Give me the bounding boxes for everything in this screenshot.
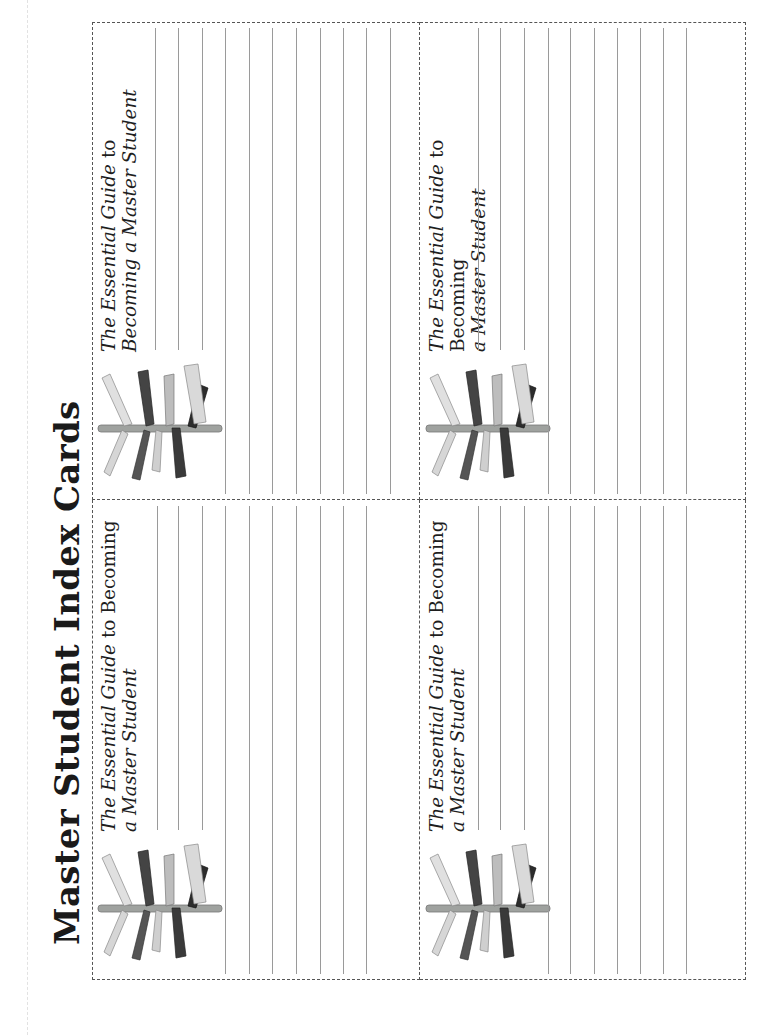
ruled-line — [390, 28, 391, 494]
ruled-line — [594, 28, 595, 494]
ruled-line — [640, 28, 641, 494]
ruled-line — [478, 28, 479, 350]
ruled-line — [178, 506, 179, 830]
ruled-line — [548, 28, 549, 494]
index-card-sheet: Master Student Index Cards — [0, 0, 762, 1035]
cut-line — [92, 22, 93, 500]
ruled-line — [296, 28, 297, 494]
ruled-line — [155, 28, 156, 350]
card-heading-line2: a Master Student — [447, 668, 468, 832]
ruled-line — [202, 506, 203, 830]
ruled-line — [617, 28, 618, 494]
card-heading-italic: The Essential Guide — [426, 644, 447, 832]
ruled-line — [272, 506, 273, 974]
cut-line — [420, 22, 746, 23]
ruled-line — [570, 506, 571, 974]
ruled-line — [178, 28, 179, 350]
ruled-line — [524, 506, 525, 830]
ruled-line — [249, 28, 250, 494]
cut-line — [745, 22, 746, 500]
index-card-bottom-right: The Essential Guide to Becoming a Master… — [420, 22, 746, 500]
ruled-line — [225, 28, 226, 494]
ruled-line — [663, 28, 664, 494]
card-heading-italic: The Essential Guide — [426, 164, 447, 352]
signpost-icon — [422, 360, 552, 490]
card-heading: The Essential Guide to Becoming a Master… — [426, 520, 468, 832]
page-title: Master Student Index Cards — [47, 401, 87, 945]
ruled-line — [272, 28, 273, 494]
ruled-line — [343, 28, 344, 494]
cut-line — [92, 499, 420, 500]
ruled-line — [570, 28, 571, 494]
ruled-line — [225, 506, 226, 974]
signpost-icon — [422, 840, 552, 970]
cut-line — [92, 22, 420, 23]
ruled-line — [663, 506, 664, 974]
card-heading-line2: Becoming a Master Student — [119, 89, 140, 352]
card-heading: The Essential Guide to Becoming a Master… — [98, 42, 140, 352]
cut-line — [92, 979, 420, 980]
cut-line — [420, 979, 746, 980]
ruled-line — [366, 506, 367, 974]
ruled-line — [500, 506, 501, 830]
ruled-line — [500, 28, 501, 350]
ruled-line — [296, 506, 297, 974]
card-heading-line2: a Master Student — [119, 668, 140, 832]
cut-line — [745, 500, 746, 980]
card-heading: The Essential Guide to Becoming a Master… — [98, 520, 140, 832]
ruled-line — [524, 28, 525, 350]
trim-guide — [27, 0, 28, 1035]
card-heading-italic: The Essential Guide — [98, 644, 119, 832]
cut-line — [92, 500, 93, 980]
index-card-bottom-left: The Essential Guide to Becoming a Master… — [420, 500, 746, 980]
card-heading-rest: to Becoming — [98, 520, 119, 644]
ruled-line — [548, 506, 549, 974]
ruled-line — [366, 28, 367, 494]
card-heading-rest: to — [98, 140, 119, 164]
cut-line — [420, 499, 746, 500]
ruled-line — [640, 506, 641, 974]
card-heading-italic: The Essential Guide — [98, 164, 119, 352]
card-heading-rest: to Becoming — [426, 520, 447, 644]
ruled-line — [478, 506, 479, 830]
index-card-top-left: The Essential Guide to Becoming a Master… — [92, 500, 420, 980]
card-heading: The Essential Guide to Becoming a Master… — [426, 42, 489, 352]
ruled-line — [320, 28, 321, 494]
card-grid: The Essential Guide to Becoming a Master… — [92, 22, 746, 980]
ruled-line — [686, 506, 687, 974]
ruled-line — [343, 506, 344, 974]
ruled-line — [249, 506, 250, 974]
ruled-line — [617, 506, 618, 974]
signpost-icon — [94, 360, 224, 490]
index-card-top-right: The Essential Guide to Becoming a Master… — [92, 22, 420, 500]
ruled-line — [202, 28, 203, 350]
ruled-line — [594, 506, 595, 974]
ruled-line — [157, 506, 158, 830]
signpost-icon — [94, 840, 224, 970]
ruled-line — [686, 28, 687, 494]
ruled-line — [320, 506, 321, 974]
